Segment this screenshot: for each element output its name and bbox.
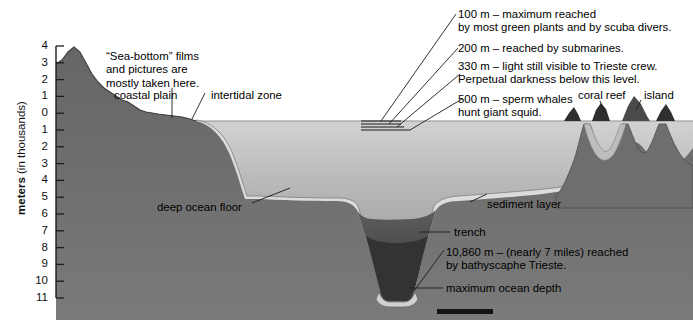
y-axis-title-bold: meters (15, 177, 27, 215)
depth-100m-note: 100 m – maximum reached by most green pl… (458, 8, 671, 35)
sea-bottom-note: “Sea-bottom” films and pictures are most… (106, 50, 199, 90)
y-tick-label: 3 (28, 158, 48, 169)
coastal-plain-label: coastal plain (114, 89, 177, 102)
sediment-layer-label: sediment layer (487, 198, 561, 211)
island-label: island (644, 89, 674, 102)
y-tick-label: 3 (28, 57, 48, 68)
y-tick-label: 5 (28, 191, 48, 202)
y-tick-label: 2 (28, 74, 48, 85)
y-tick-label: 6 (28, 208, 48, 219)
y-tick-label: 2 (28, 141, 48, 152)
depth-leader-lines (381, 14, 462, 130)
trieste-depth-note: 10,860 m – (nearly 7 miles) reached by b… (446, 246, 628, 273)
y-tick-label: 10 (24, 275, 48, 286)
coral-reef-peak (592, 103, 610, 121)
intertidal-zone-label: intertidal zone (211, 89, 282, 102)
y-tick-label: 8 (28, 242, 48, 253)
y-tick-label: 4 (28, 174, 48, 185)
y-tick-label: 1 (28, 90, 48, 101)
y-axis-title-rest: (in thousands) (15, 101, 27, 177)
depth-500m-note: 500 m – sperm whales hunt giant squid. (458, 93, 573, 120)
y-tick-label: 9 (28, 258, 48, 269)
y-tick-label: 0 (28, 107, 48, 118)
trench-label: trench (454, 226, 486, 239)
ocean-depth-diagram: 4 3 2 1 0 1 2 3 4 5 6 7 8 9 10 11 meters… (0, 0, 693, 320)
maximum-ocean-depth-label: maximum ocean depth (446, 282, 561, 295)
depth-200m-note: 200 m – reached by submarines. (458, 42, 624, 55)
seamount-peak-right (656, 104, 675, 121)
y-tick-label: 4 (28, 40, 48, 51)
y-tick-label: 11 (24, 292, 48, 303)
y-tick-label: 1 (28, 124, 48, 135)
coral-reef-label: coral reef (578, 89, 625, 102)
intertidal-zone-leader (192, 93, 205, 119)
y-axis-title: meters (in thousands) (15, 93, 27, 223)
depth-330m-note: 330 m – light still visible to Trieste c… (458, 60, 657, 87)
deep-ocean-floor-label: deep ocean floor (157, 201, 242, 214)
y-tick-label: 7 (28, 225, 48, 236)
scale-bar (437, 309, 493, 314)
